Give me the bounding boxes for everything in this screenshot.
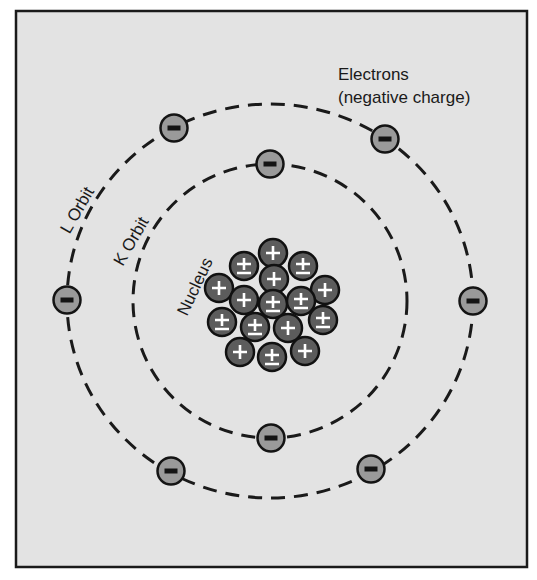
neutron <box>241 313 269 341</box>
minus-icon <box>61 298 74 303</box>
electron <box>54 287 81 314</box>
neutron <box>309 306 337 334</box>
minus-icon <box>379 137 392 142</box>
proton <box>291 337 319 365</box>
minus-icon <box>165 469 178 474</box>
electron <box>258 425 285 452</box>
electron <box>257 151 284 178</box>
atom-diagram: Electrons (negative charge) L Orbit K Or… <box>0 0 537 580</box>
minus-icon <box>365 467 378 472</box>
electron <box>372 126 399 153</box>
proton <box>226 338 254 366</box>
electron <box>460 288 487 315</box>
neutron <box>208 308 236 336</box>
electron <box>161 115 188 142</box>
minus-icon <box>467 299 480 304</box>
electrons-label-line1: Electrons <box>338 65 409 84</box>
minus-icon <box>168 126 181 131</box>
proton <box>259 239 287 267</box>
electrons-label-line2: (negative charge) <box>338 88 470 107</box>
electron <box>358 456 385 483</box>
proton <box>230 286 258 314</box>
minus-icon <box>264 162 277 167</box>
neutron <box>289 252 317 280</box>
minus-icon <box>265 436 278 441</box>
neutron <box>258 343 286 371</box>
neutron <box>287 287 315 315</box>
electron <box>158 458 185 485</box>
neutron <box>230 252 258 280</box>
